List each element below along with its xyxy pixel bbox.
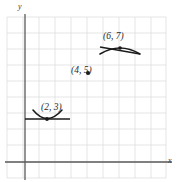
point-label-6-7: (6, 7) (103, 32, 124, 42)
grid-vertical-lines (7, 17, 166, 178)
plot-canvas (0, 0, 179, 182)
coordinate-plane-figure: y x (2, 3) (4, 5) (6, 7) (0, 0, 179, 182)
point-6-7-annotation (100, 46, 140, 54)
x-axis-label: x (168, 157, 172, 165)
grid-horizontal-lines (7, 17, 166, 178)
y-axis-label: y (18, 3, 22, 11)
point-marker-2-3 (45, 117, 49, 121)
point-label-4-5: (4, 5) (71, 66, 92, 76)
point-marker-6-7 (118, 46, 122, 50)
point-label-2-3: (2, 3) (41, 103, 62, 113)
